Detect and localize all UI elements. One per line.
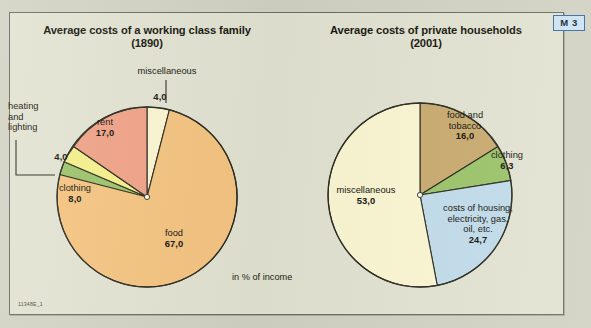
value-left-heating: 4,0 [46, 152, 76, 163]
label-right-food-line2: tobacco [449, 121, 482, 131]
label-right-food-tobacco: food and tobacco 16,0 [432, 110, 498, 142]
label-right-food-line1: food and [447, 110, 483, 120]
value-right-miscellaneous: 53,0 [326, 196, 406, 207]
label-left-food: food 67,0 [151, 228, 197, 249]
label-left-rent: rent 17,0 [77, 117, 133, 138]
label-right-miscellaneous: miscellaneous 53,0 [326, 185, 406, 206]
value-left-rent: 17,0 [77, 128, 133, 139]
right-pie-center-dot [417, 192, 422, 197]
label-right-housing: costs of housing, electricity, gas, oil,… [427, 203, 529, 245]
value-right-housing: 24,7 [427, 235, 529, 246]
value-left-food: 67,0 [151, 239, 197, 250]
label-left-miscellaneous-callout: miscellaneous [118, 66, 216, 77]
value-left-clothing: 8,0 [44, 194, 106, 205]
label-right-clothing-name: clothing [491, 150, 523, 160]
label-left-clothing-name: clothing [59, 183, 91, 193]
label-right-housing-line2: electricity, gas, [448, 214, 509, 224]
figure-root: Average costs of a working class family … [0, 0, 591, 328]
label-left-heating-callout: heating and lighting [8, 101, 66, 133]
label-right-miscellaneous-name: miscellaneous [337, 185, 396, 195]
label-right-clothing: clothing 6,3 [479, 150, 535, 171]
label-right-housing-line3: oil, etc. [463, 224, 492, 234]
label-left-heating-line1: heating [8, 101, 39, 111]
unit-footnote: in % of income [232, 272, 292, 282]
left-pie-center-dot [144, 194, 149, 199]
value-left-miscellaneous: 4,0 [142, 92, 178, 103]
label-left-clothing: clothing 8,0 [44, 183, 106, 204]
label-left-heating-value: 4,0 [46, 152, 76, 163]
value-right-clothing: 6,3 [479, 161, 535, 172]
label-left-food-name: food [165, 228, 183, 238]
label-left-miscellaneous-value: 4,0 [142, 92, 178, 103]
label-left-heating-line3: lighting [8, 122, 37, 132]
label-right-housing-line1: costs of housing, [443, 203, 513, 213]
label-left-rent-name: rent [97, 117, 113, 127]
value-right-food-tobacco: 16,0 [432, 131, 498, 142]
source-code: 11348E_1 [18, 301, 43, 307]
label-left-heating-line2: and [8, 112, 24, 122]
